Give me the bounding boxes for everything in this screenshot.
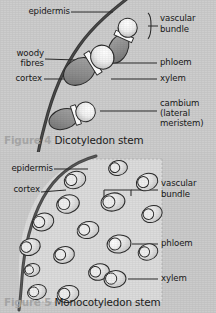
label-phloem-dicot: phloem bbox=[160, 58, 216, 68]
label-vascular-bundle-monocot-line2: bundle bbox=[161, 190, 216, 200]
label-epidermis-monocot: epidermis bbox=[0, 164, 53, 174]
figure-page: epidermis vascular bundle woody fibres c… bbox=[0, 0, 216, 313]
figure-4-number: Figure 4 bbox=[4, 134, 51, 146]
figure-4-title-text: Dicotyledon stem bbox=[54, 134, 143, 146]
figure-5-number: Figure 5 bbox=[4, 296, 51, 308]
vascular-bundle-2 bbox=[58, 40, 118, 91]
label-xylem-dicot: xylem bbox=[160, 74, 216, 84]
figure-5-caption: Figure 5 Monocotyledon stem bbox=[4, 296, 160, 308]
label-vascular-bundle-monocot-line1: vascular bbox=[161, 179, 216, 189]
label-epidermis-dicot: epidermis bbox=[6, 7, 70, 17]
figure-4-caption: Figure 4 Dicotyledon stem bbox=[4, 134, 143, 146]
figure-5-diagram: epidermis cortex vascular bundle phloem … bbox=[0, 152, 216, 313]
label-vascular-bundle-dicot-line2: bundle bbox=[160, 25, 216, 35]
vascular-bundle-3 bbox=[46, 99, 98, 133]
monocot-artwork bbox=[0, 152, 216, 313]
label-cortex-dicot: cortex bbox=[0, 74, 42, 84]
label-phloem-monocot: phloem bbox=[161, 239, 216, 249]
label-cambium-line3: meristem) bbox=[160, 119, 216, 129]
label-vascular-bundle-dicot-line1: vascular bbox=[160, 14, 216, 24]
label-cortex-monocot: cortex bbox=[0, 185, 40, 195]
label-xylem-monocot: xylem bbox=[161, 274, 216, 284]
figure-5-title-text: Monocotyledon stem bbox=[54, 296, 160, 308]
label-woody-fibres-line2: fibres bbox=[0, 59, 44, 69]
figure-4-diagram: epidermis vascular bundle woody fibres c… bbox=[0, 0, 216, 152]
